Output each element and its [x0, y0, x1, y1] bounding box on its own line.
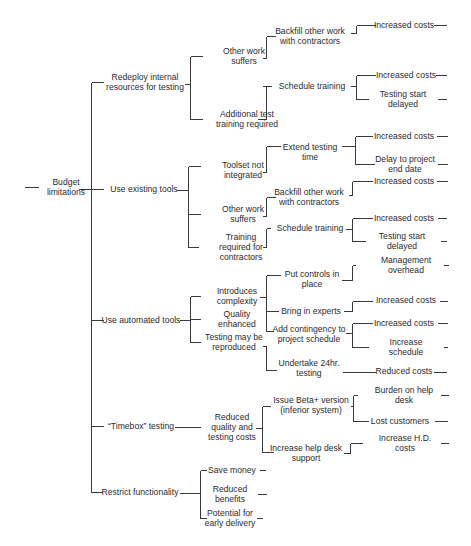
- tree-node: Increased costs: [374, 318, 434, 328]
- tree-node: Issue Beta+ version (inferior system): [273, 395, 349, 415]
- tree-node: Bring in experts: [281, 306, 341, 316]
- tree-node: Other work suffers: [222, 204, 264, 224]
- tree-node: Increase help desk support: [270, 443, 342, 463]
- budget-limitations-tree: Budget limitationsRedeploy internal reso…: [0, 0, 471, 546]
- tree-node: Burden on help desk: [371, 385, 438, 405]
- tree-node: Increased costs: [374, 20, 434, 30]
- tree-node: Save money: [208, 465, 256, 475]
- tree-node: Extend testing time: [283, 142, 337, 162]
- tree-node: Add contingency to project schedule: [272, 324, 345, 344]
- tree-node: Use automated tools: [102, 315, 181, 325]
- tree-node: Training required for contractors: [219, 232, 263, 262]
- tree-node: Increased costs: [376, 70, 436, 80]
- tree-node: Increased costs: [376, 295, 436, 305]
- tree-node: Use existing tools: [110, 184, 177, 194]
- tree-node: Additional test training required: [216, 109, 278, 129]
- tree-node: Backfill other work with contractors: [275, 26, 345, 46]
- tree-node: Schedule training: [279, 81, 345, 91]
- tree-node: Delay to project end date: [375, 154, 435, 174]
- tree-node: Management overhead: [374, 255, 439, 275]
- tree-node: Potential for early delivery: [205, 508, 256, 528]
- tree-node: Schedule training: [277, 223, 343, 233]
- tree-node: Testing start delayed: [369, 89, 437, 109]
- tree-node: Testing may be reproduced: [205, 332, 263, 352]
- root-node: Budget limitations: [47, 177, 85, 197]
- tree-node: Increased costs: [374, 213, 434, 223]
- tree-node: Other work suffers: [223, 46, 265, 66]
- tree-node: Increased costs: [374, 176, 434, 186]
- tree-node: Reduced benefits: [213, 484, 247, 504]
- tree-node: Increase schedule: [374, 337, 439, 357]
- tree-node: Increase H.D. costs: [372, 433, 438, 453]
- tree-node: Toolset not integrated: [222, 160, 264, 180]
- tree-node: “Timebox” testing: [108, 421, 174, 431]
- tree-node: Introduces complexity: [217, 286, 258, 306]
- tree-node: Lost customers: [371, 416, 429, 426]
- tree-node: Restrict functionality: [102, 487, 179, 497]
- tree-node: Undertake 24hr. testing: [278, 358, 339, 378]
- tree-node: Put controls in place: [285, 269, 339, 289]
- tree-node: Increased costs: [374, 131, 434, 141]
- tree-node: Backfill other work with contractors: [274, 187, 344, 207]
- tree-node: Redeploy internal resources for testing: [106, 72, 184, 92]
- tree-node: Reduced quality and testing costs: [208, 412, 256, 442]
- tree-node: Testing start delayed: [368, 231, 437, 251]
- tree-node: Quality enhanced: [218, 309, 256, 329]
- tree-node: Reduced costs: [376, 366, 433, 376]
